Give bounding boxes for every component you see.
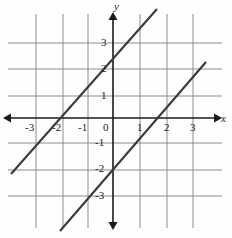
y-axis-label: y xyxy=(114,0,119,12)
x-tick-label-neg3: -3 xyxy=(25,121,34,133)
graph-canvas xyxy=(0,0,232,238)
x-tick-label-2: 2 xyxy=(164,121,170,133)
y-tick-label-3: 3 xyxy=(101,36,107,48)
x-tick-label-neg2: -2 xyxy=(52,121,61,133)
x-tick-label-1: 1 xyxy=(137,121,143,133)
y-tick-label-2: 2 xyxy=(101,62,107,74)
y-tick-label-neg3: -3 xyxy=(95,189,104,201)
y-axis xyxy=(109,12,118,230)
line-y-equals-x-plus-2 xyxy=(11,9,157,174)
x-tick-label-3: 3 xyxy=(190,121,196,133)
y-tick-label-neg1: -1 xyxy=(95,136,104,148)
coordinate-graph-figure: -3 -2 -1 0 1 2 3 3 2 1 -1 -2 -3 x y xyxy=(0,0,232,238)
y-tick-label-neg2: -2 xyxy=(95,162,104,174)
line-y-equals-x-minus-2 xyxy=(60,62,206,231)
x-tick-label-neg1: -1 xyxy=(78,121,87,133)
x-axis-label: x xyxy=(221,112,226,124)
x-tick-label-0: 0 xyxy=(103,121,109,133)
plotted-lines xyxy=(11,9,206,231)
y-tick-label-1: 1 xyxy=(101,89,107,101)
